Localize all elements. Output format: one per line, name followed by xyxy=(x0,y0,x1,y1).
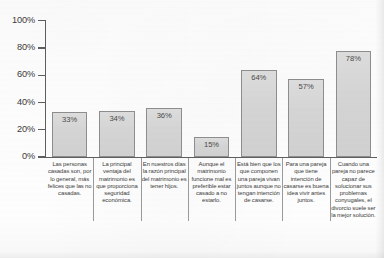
category-label-divider xyxy=(188,158,189,221)
scanned-page: 100%80%60%40%20%0% 33%34%36%15%64%57%78%… xyxy=(0,0,384,258)
category-label-divider xyxy=(93,158,94,221)
category-label: Para una pareja que tiene intención de c… xyxy=(282,158,329,236)
bar: 34% xyxy=(99,111,135,157)
category-label: Aunque el matrimonio funcione mal es pre… xyxy=(188,158,235,236)
bar: 57% xyxy=(288,79,324,157)
category-labels-band: Las personas casadas son, por lo general… xyxy=(46,158,377,236)
category-label-divider xyxy=(282,158,283,221)
category-label: Cuando una pareja no parece capaz de sol… xyxy=(330,158,377,236)
bar-value-label: 34% xyxy=(100,115,134,123)
bar: 36% xyxy=(146,108,182,157)
bar-value-label: 64% xyxy=(242,74,276,82)
bar: 15% xyxy=(194,137,230,157)
bar-value-label: 33% xyxy=(53,116,87,124)
category-label-divider xyxy=(141,158,142,221)
bar: 78% xyxy=(336,51,372,157)
category-label-divider xyxy=(330,158,331,221)
bar-value-label: 57% xyxy=(289,83,323,91)
bar-value-label: 36% xyxy=(147,112,181,120)
category-label: En nuestros días la razón principal del … xyxy=(141,158,188,236)
category-label: Las personas casadas son, por lo general… xyxy=(46,158,93,236)
category-label: Está bien que los que componen una parej… xyxy=(235,158,282,236)
bar-chart: 100%80%60%40%20%0% 33%34%36%15%64%57%78%… xyxy=(0,0,384,258)
bar-value-label: 15% xyxy=(195,141,229,149)
bar-value-label: 78% xyxy=(337,55,371,63)
category-label-divider xyxy=(235,158,236,221)
bar: 33% xyxy=(52,112,88,157)
category-label: La principal ventaja del matrimonio es q… xyxy=(93,158,140,236)
bar: 64% xyxy=(241,70,277,157)
